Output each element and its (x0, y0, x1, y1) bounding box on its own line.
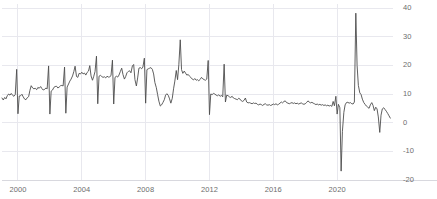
x-axis-tick-label: 2004 (73, 185, 90, 194)
y-axis-tick-label: -20 (403, 175, 414, 184)
line-chart-plot (0, 0, 437, 199)
y-axis-tick-label: 10 (403, 89, 412, 98)
chart-container: -20-10010203040 200020042008201220162020 (0, 0, 437, 199)
x-axis-tick-label: 2008 (137, 185, 154, 194)
x-axis-tick-label: 2016 (265, 185, 282, 194)
x-axis-tick-label: 2020 (329, 185, 346, 194)
x-axis-tick-label: 2012 (201, 185, 218, 194)
y-axis-tick-label: 0 (403, 118, 407, 127)
y-axis-tick-label: 40 (403, 3, 412, 12)
y-axis-tick-label: 20 (403, 60, 412, 69)
x-axis-tick-label: 2000 (9, 185, 26, 194)
y-axis-tick-label: -10 (403, 146, 414, 155)
grid-lines (2, 4, 393, 180)
y-axis-tick-label: 30 (403, 32, 412, 41)
